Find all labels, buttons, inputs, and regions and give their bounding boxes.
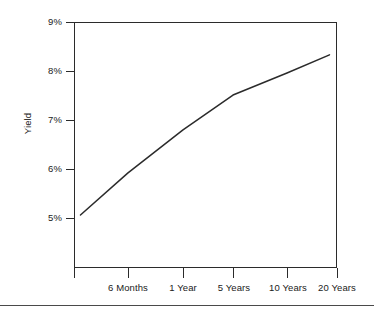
y-axis-tick-7 bbox=[66, 120, 75, 121]
y-axis-label-8: 8% bbox=[32, 66, 62, 76]
y-axis-tick-9 bbox=[66, 22, 75, 23]
y-axis-label-6-wrap: 6% bbox=[28, 164, 62, 174]
y-axis-label-8-wrap: 8% bbox=[28, 66, 62, 76]
x-axis-tick-1-year bbox=[183, 268, 184, 278]
x-axis-tick-5-years bbox=[233, 268, 234, 278]
y-axis-tick-8 bbox=[66, 71, 75, 72]
y-axis-label-5: 5% bbox=[32, 213, 62, 223]
y-axis-label-5-wrap: 5% bbox=[28, 213, 62, 223]
yield-curve-chart: 9% 8% 7% 6% 5% Yield 6 Months 1 Year 5 Y… bbox=[0, 0, 374, 317]
y-axis-label-7-wrap: 7% bbox=[28, 115, 62, 125]
y-axis-title: Yield bbox=[22, 94, 33, 154]
x-axis-label-10-years: 10 Years bbox=[269, 282, 307, 293]
footer-divider bbox=[0, 305, 374, 306]
y-axis-label-9: 9% bbox=[32, 17, 62, 27]
x-axis-tick-origin bbox=[74, 268, 75, 278]
plot-area bbox=[74, 22, 337, 268]
x-axis-label-6-months: 6 Months bbox=[108, 282, 148, 293]
x-axis-label-1-year: 1 Year bbox=[169, 282, 197, 293]
x-axis-tick-20-years bbox=[337, 268, 338, 278]
y-axis-label-9-wrap: 9% bbox=[28, 17, 62, 27]
y-axis-tick-5 bbox=[66, 218, 75, 219]
x-axis-label-5-years: 5 Years bbox=[218, 282, 250, 293]
y-axis-label-7: 7% bbox=[32, 115, 62, 125]
x-axis-tick-10-years bbox=[287, 268, 288, 278]
y-axis-label-6: 6% bbox=[32, 164, 62, 174]
x-axis-label-20-years: 20 Years bbox=[318, 282, 356, 293]
x-axis-tick-6-months bbox=[128, 268, 129, 278]
y-axis-tick-6 bbox=[66, 169, 75, 170]
